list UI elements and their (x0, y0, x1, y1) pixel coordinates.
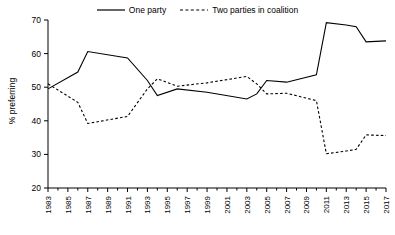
x-axis: 1983198519871989199119931995199719992001… (44, 188, 391, 214)
x-tick-label: 1991 (124, 195, 133, 213)
x-tick-label: 1989 (104, 195, 113, 213)
x-tick-label: 2007 (283, 195, 292, 213)
x-tick-label: 2017 (382, 195, 391, 213)
y-axis: 203040506070 (32, 15, 48, 193)
x-tick-label: 2011 (322, 195, 331, 213)
y-tick-label: 30 (32, 149, 42, 159)
y-tick-label: 50 (32, 82, 42, 92)
x-tick-label: 2003 (243, 195, 252, 213)
y-tick-label: 60 (32, 49, 42, 59)
x-tick-label: 1995 (163, 195, 172, 213)
x-tick-label: 2005 (263, 195, 272, 213)
x-tick-label: 2015 (362, 195, 371, 213)
data-series-group (48, 23, 386, 154)
x-tick-label: 1983 (44, 195, 53, 213)
x-tick-label: 1987 (84, 195, 93, 213)
y-tick-label: 40 (32, 116, 42, 126)
x-tick-label: 2013 (342, 195, 351, 213)
plot-area: 203040506070 198319851987198919911993199… (0, 0, 395, 235)
line-chart: One party Two parties in coalition % pre… (0, 0, 395, 235)
x-tick-label: 1985 (64, 195, 73, 213)
x-tick-label: 1997 (183, 195, 192, 213)
series-line-one-party (48, 23, 386, 99)
x-tick-label: 1993 (143, 195, 152, 213)
x-tick-label: 1999 (203, 195, 212, 213)
y-tick-label: 20 (32, 183, 42, 193)
x-tick-label: 2001 (223, 195, 232, 213)
x-tick-label: 2009 (302, 195, 311, 213)
y-tick-label: 70 (32, 15, 42, 25)
series-line-two-parties (48, 76, 386, 153)
